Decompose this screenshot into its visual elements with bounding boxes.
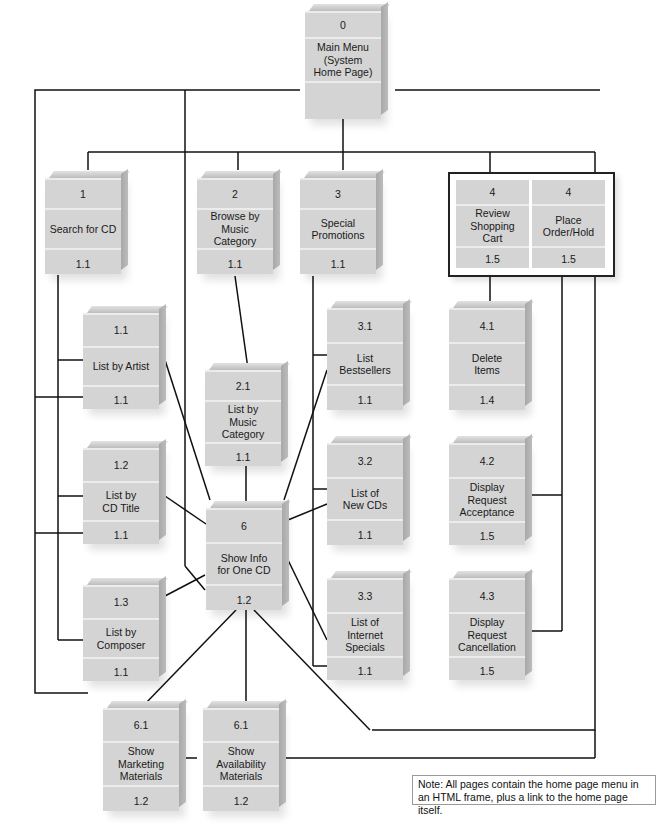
node-number: 4	[456, 180, 529, 204]
node-title: List by Music Category	[205, 400, 281, 442]
node-title: Main Menu (System Home Page)	[305, 37, 381, 81]
node-title: List Bestsellers	[327, 342, 403, 384]
node-number: 4.1	[449, 308, 525, 342]
node-footer: 1.1	[83, 385, 159, 413]
node-review-shopping-cart: 4 Review Shopping Cart 1.5	[456, 180, 529, 268]
note-line: an HTML frame, plus a link to the home p…	[418, 791, 650, 817]
node-footer: 1.2	[203, 785, 279, 815]
node-number: 1.3	[83, 585, 159, 618]
node-title: List by Artist	[83, 346, 159, 385]
node-footer: 1.5	[532, 246, 605, 270]
node-title: Display Request Acceptance	[449, 477, 525, 521]
node-number: 6	[206, 508, 282, 542]
node-list-bestsellers: 3.1 List Bestsellers 1.1	[327, 308, 403, 410]
node-footer: 1.1	[327, 384, 403, 414]
node-place-order-hold: 4 Place Order/Hold 1.5	[532, 180, 605, 268]
node-display-request-cancellation: 4.3 Display Request Cancellation 1.5	[449, 578, 525, 680]
node-number: 6.1	[203, 708, 279, 741]
node-footer: 1.1	[83, 657, 159, 685]
node-number: 2.1	[205, 370, 281, 400]
node-title: Browse by Music Category	[197, 208, 273, 248]
note-line: Note: All pages contain the home page me…	[418, 778, 650, 791]
node-title: List by CD Title	[83, 481, 159, 520]
node-number: 1.2	[83, 448, 159, 481]
node-number: 1.1	[83, 313, 159, 346]
node-footer: 1.1	[205, 442, 281, 470]
node-footer: 1.1	[327, 519, 403, 549]
node-title: Special Promotions	[300, 208, 376, 248]
node-footer: 1.5	[449, 656, 525, 684]
node-title: Display Request Cancellation	[449, 612, 525, 656]
node-number: 0	[305, 11, 381, 37]
node-list-of-internet-specials: 3.3 List of Internet Specials 1.1	[327, 578, 403, 680]
node-special-promotions: 3 Special Promotions 1.1	[300, 178, 376, 274]
node-title: Search for CD	[45, 208, 121, 248]
node-title: List by Composer	[83, 618, 159, 657]
node-list-of-new-cds: 3.2 List of New CDs 1.1	[327, 443, 403, 545]
node-footer: 1.1	[83, 520, 159, 548]
node-number: 4	[532, 180, 605, 204]
node-footer: 1.5	[456, 246, 529, 270]
node-number: 2	[197, 178, 273, 208]
node-delete-items: 4.1 Delete Items 1.4	[449, 308, 525, 410]
note-box: Note: All pages contain the home page me…	[412, 775, 656, 805]
node-number: 3	[300, 178, 376, 208]
node-footer: 1.1	[327, 656, 403, 684]
node-footer: 1.2	[206, 584, 282, 614]
node-browse-by-music-category: 2 Browse by Music Category 1.1	[197, 178, 273, 274]
node-title: Show Marketing Materials	[103, 741, 179, 785]
node-title: Show Availability Materials	[203, 741, 279, 785]
node-number: 3.1	[327, 308, 403, 342]
node-footer: 1.2	[103, 785, 179, 815]
node-title: List of New CDs	[327, 477, 403, 519]
node-number: 4.3	[449, 578, 525, 612]
node-main-menu: 0 Main Menu (System Home Page)	[305, 11, 381, 119]
node-group-4: 4 Review Shopping Cart 1.5 4 Place Order…	[448, 172, 615, 277]
node-search-for-cd: 1 Search for CD 1.1	[45, 178, 121, 274]
connector-lines	[0, 0, 661, 837]
node-list-by-cd-title: 1.2 List by CD Title 1.1	[83, 448, 159, 544]
node-show-marketing-materials: 6.1 Show Marketing Materials 1.2	[103, 708, 179, 811]
node-number: 4.2	[449, 443, 525, 477]
node-title: List of Internet Specials	[327, 612, 403, 656]
node-list-by-composer: 1.3 List by Composer 1.1	[83, 585, 159, 681]
node-number: 6.1	[103, 708, 179, 741]
node-footer: 1.1	[300, 248, 376, 278]
node-show-availability-materials: 6.1 Show Availability Materials 1.2	[203, 708, 279, 811]
node-title: Review Shopping Cart	[456, 204, 529, 246]
node-display-request-acceptance: 4.2 Display Request Acceptance 1.5	[449, 443, 525, 545]
node-footer: 1.4	[449, 384, 525, 414]
node-list-by-artist: 1.1 List by Artist 1.1	[83, 313, 159, 409]
node-footer: 1.5	[449, 521, 525, 549]
node-number: 3.3	[327, 578, 403, 612]
node-footer	[305, 81, 381, 123]
node-footer: 1.1	[45, 248, 121, 278]
node-title: Place Order/Hold	[532, 204, 605, 246]
node-show-info-for-one-cd: 6 Show Info for One CD 1.2	[206, 508, 282, 610]
node-footer: 1.1	[197, 248, 273, 278]
node-number: 1	[45, 178, 121, 208]
node-title: Show Info for One CD	[206, 542, 282, 584]
node-title: Delete Items	[449, 342, 525, 384]
node-list-by-music-category: 2.1 List by Music Category 1.1	[205, 370, 281, 466]
node-number: 3.2	[327, 443, 403, 477]
